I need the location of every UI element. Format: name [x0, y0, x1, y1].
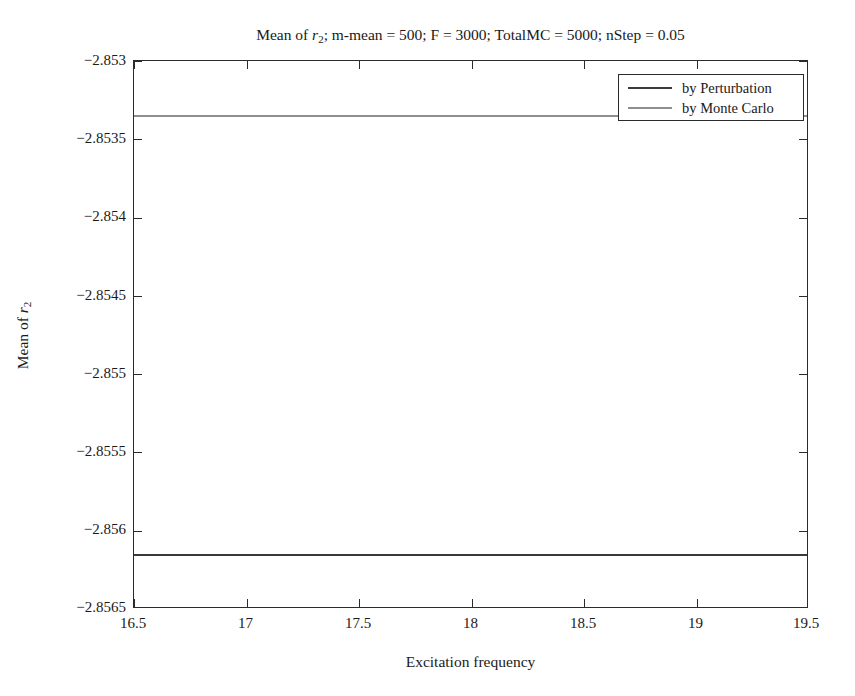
y-tick-label: −2.856 — [84, 522, 126, 537]
y-tick-mark — [134, 218, 142, 219]
legend-entry-by-perturbation[interactable]: by Perturbation — [619, 78, 803, 98]
y-axis-title: Mean of r2 — [14, 276, 33, 396]
y-axis-title-lead: Mean of — [14, 313, 31, 369]
y-tick-label: −2.854 — [84, 209, 126, 224]
legend-swatch-icon — [628, 87, 672, 89]
legend-label: by Perturbation — [682, 80, 772, 96]
chart-title-lead: Mean of — [256, 26, 312, 43]
x-tick-mark — [584, 599, 585, 607]
y-tick-mark — [134, 452, 142, 453]
x-tick-mark — [472, 599, 473, 607]
x-tick-mark — [359, 599, 360, 607]
y-tick-mark-right — [799, 531, 807, 532]
y-tick-mark — [134, 531, 142, 532]
x-tick-mark-top — [697, 61, 698, 69]
x-tick-mark-top — [472, 61, 473, 69]
legend-swatch-icon — [628, 107, 672, 109]
y-tick-mark — [134, 61, 142, 62]
x-axis-tick-labels: 16.5 17 17.5 18 18.5 19 19.5 — [0, 616, 855, 640]
x-tick-label: 16.5 — [120, 616, 146, 631]
x-tick-mark — [247, 599, 248, 607]
y-tick-mark — [134, 296, 142, 297]
x-tick-label: 19 — [688, 616, 703, 631]
series-line-by-perturbation — [134, 554, 807, 556]
y-tick-mark-right — [799, 139, 807, 140]
y-axis-title-variable: r — [14, 307, 31, 313]
y-tick-label: −2.8545 — [76, 288, 126, 303]
y-tick-label: −2.855 — [84, 366, 126, 381]
x-tick-label: 19.5 — [793, 616, 819, 631]
y-tick-mark-right — [799, 452, 807, 453]
chart-title: Mean of r2; m-mean = 500; F = 3000; Tota… — [133, 26, 808, 48]
y-tick-mark-right — [799, 61, 807, 62]
x-tick-mark-top — [584, 61, 585, 69]
y-tick-label: −2.8535 — [76, 131, 126, 146]
x-tick-label: 18 — [463, 616, 478, 631]
legend-entry-by-monte-carlo[interactable]: by Monte Carlo — [619, 98, 803, 118]
y-tick-mark-right — [799, 374, 807, 375]
legend-label: by Monte Carlo — [682, 100, 774, 116]
x-axis-title: Excitation frequency — [133, 653, 808, 671]
figure-canvas: Mean of r2; m-mean = 500; F = 3000; Tota… — [0, 0, 855, 696]
x-tick-label: 18.5 — [570, 616, 596, 631]
x-tick-mark-top — [359, 61, 360, 69]
x-tick-label: 17 — [238, 616, 253, 631]
y-tick-mark — [134, 374, 142, 375]
x-tick-mark-top — [134, 61, 135, 69]
x-tick-mark — [697, 599, 698, 607]
chart-title-params: ; m-mean = 500; F = 3000; TotalMC = 5000… — [324, 26, 685, 43]
y-axis-title-variable-subscript: 2 — [21, 302, 33, 308]
plot-area: by Perturbation by Monte Carlo — [133, 60, 808, 608]
x-tick-mark — [134, 599, 135, 607]
legend[interactable]: by Perturbation by Monte Carlo — [618, 74, 804, 121]
y-tick-label: −2.853 — [84, 53, 126, 68]
y-tick-mark — [134, 139, 142, 140]
x-tick-mark-top — [247, 61, 248, 69]
y-tick-mark-right — [799, 218, 807, 219]
y-tick-label: −2.8555 — [76, 444, 126, 459]
y-tick-label: −2.8565 — [76, 600, 126, 615]
x-tick-label: 17.5 — [345, 616, 371, 631]
y-tick-mark-right — [799, 296, 807, 297]
